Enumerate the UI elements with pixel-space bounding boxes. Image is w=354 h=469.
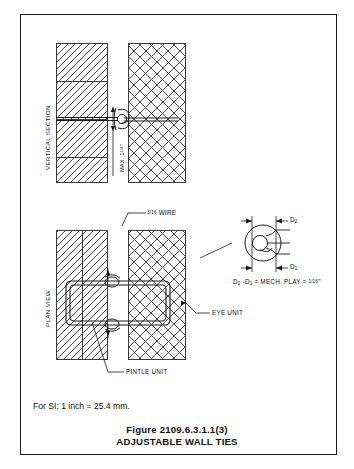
- dimension-d1-label: D1: [290, 263, 298, 271]
- figure-page: VERTICAL SECTION MAX. 11/4" PLAN VIEW: [0, 0, 354, 469]
- dimension-d2-label: D2: [290, 216, 298, 224]
- figure-title: ADJUSTABLE WALL TIES: [0, 436, 354, 447]
- si-conversion-note: For SI: 1 inch = 25.4 mm.: [33, 401, 130, 411]
- figure-number: Figure 2109.6.3.1.1(3): [0, 424, 354, 435]
- enlarged-detail-drawing: [0, 0, 354, 469]
- mech-play-equation: D2 -D1 = MECH. PLAY = 1/16": [233, 278, 321, 286]
